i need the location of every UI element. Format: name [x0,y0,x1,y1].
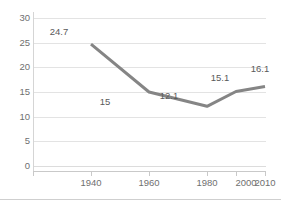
data-label-2000: 15.1 [203,72,237,83]
data-label-2010: 16.1 [243,63,277,74]
data-label-1960: 15 [88,96,122,107]
bottom-divider [0,199,281,200]
data-label-1940: 24.7 [42,26,76,37]
data-label-1980: 12.1 [152,90,186,101]
line-chart: 30 25 20 15 10 5 0 1940 1960 1980 2000 2… [0,0,281,209]
